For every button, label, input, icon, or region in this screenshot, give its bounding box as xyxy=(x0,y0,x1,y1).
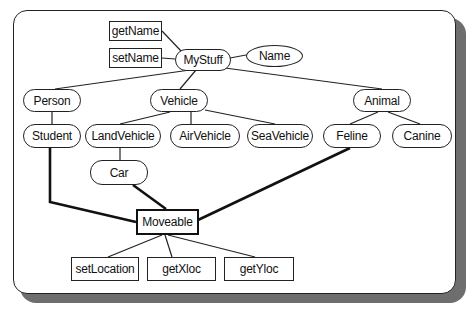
node-Vehicle: Vehicle xyxy=(150,89,208,112)
node-MyStuff: MyStuff xyxy=(175,49,231,71)
node-Canine: Canine xyxy=(392,124,452,148)
node-getXloc: getXloc xyxy=(147,257,216,281)
node-getName: getName xyxy=(109,21,162,41)
node-Person: Person xyxy=(23,89,81,112)
node-Moveable: Moveable xyxy=(136,209,199,235)
node-Car: Car xyxy=(90,160,148,185)
node-setLocation: setLocation xyxy=(71,257,139,281)
node-SeaVehicle: SeaVehicle xyxy=(247,124,313,148)
node-getYloc: getYloc xyxy=(224,257,294,281)
node-Name: Name xyxy=(246,45,303,67)
node-LandVehicle: LandVehicle xyxy=(85,124,161,148)
node-Animal: Animal xyxy=(353,89,411,112)
node-Student: Student xyxy=(23,124,81,148)
node-setName: setName xyxy=(109,48,162,68)
node-AirVehicle: AirVehicle xyxy=(170,124,240,148)
node-Feline: Feline xyxy=(323,124,381,148)
